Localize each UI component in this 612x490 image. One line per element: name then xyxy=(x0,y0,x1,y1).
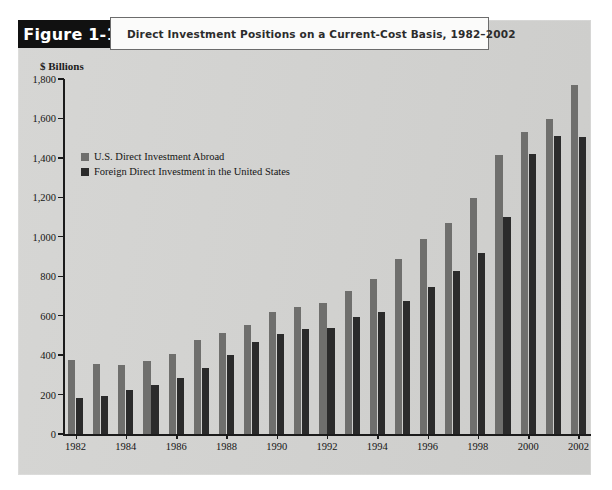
bar-us-direct-investment-abroad xyxy=(420,239,427,434)
x-axis-tick-label: 1990 xyxy=(266,441,287,452)
x-axis-tick xyxy=(126,434,127,439)
legend-label: U.S. Direct Investment Abroad xyxy=(94,151,224,162)
bar-us-direct-investment-abroad xyxy=(495,155,502,434)
figure-container: Figure 1-1 Direct Investment Positions o… xyxy=(0,0,612,490)
bar-foreign-direct-investment-in-us xyxy=(126,390,133,434)
y-axis-tick-label: 800 xyxy=(18,271,56,282)
figure-number-tab: Figure 1-1 xyxy=(18,20,123,48)
legend-swatch-icon xyxy=(81,168,89,176)
bar-us-direct-investment-abroad xyxy=(546,119,553,434)
x-axis-tick xyxy=(478,434,479,439)
figure-number-label: Figure 1-1 xyxy=(23,25,117,44)
page-title: Direct Investment Positions on a Current… xyxy=(127,28,516,40)
bar-foreign-direct-investment-in-us xyxy=(227,355,234,434)
y-axis-tick-label: 400 xyxy=(18,350,56,361)
bar-foreign-direct-investment-in-us xyxy=(353,317,360,434)
y-axis-unit-label: $ Billions xyxy=(40,60,84,72)
bar-us-direct-investment-abroad xyxy=(571,85,578,434)
x-axis-tick xyxy=(528,434,529,439)
x-axis-tick-label: 1992 xyxy=(317,441,338,452)
bar-us-direct-investment-abroad xyxy=(244,325,251,434)
y-axis-tick-label: 200 xyxy=(18,389,56,400)
bar-plot xyxy=(63,79,591,434)
bar-us-direct-investment-abroad xyxy=(395,259,402,434)
bar-us-direct-investment-abroad xyxy=(294,307,301,434)
bar-foreign-direct-investment-in-us xyxy=(252,342,259,434)
x-axis-tick xyxy=(226,434,227,439)
bar-us-direct-investment-abroad xyxy=(445,223,452,434)
x-axis-tick-label: 1998 xyxy=(467,441,488,452)
x-axis-tick xyxy=(327,434,328,439)
bar-us-direct-investment-abroad xyxy=(370,279,377,434)
bar-foreign-direct-investment-in-us xyxy=(302,329,309,434)
x-axis-tick-label: 1984 xyxy=(115,441,136,452)
bar-us-direct-investment-abroad xyxy=(118,365,125,434)
bar-foreign-direct-investment-in-us xyxy=(378,312,385,434)
y-axis-tick-label: 1,800 xyxy=(18,74,56,85)
x-axis-tick xyxy=(428,434,429,439)
legend-label: Foreign Direct Investment in the United … xyxy=(94,166,290,177)
x-axis-tick xyxy=(277,434,278,439)
x-axis-tick-label: 2002 xyxy=(568,441,589,452)
y-axis-tick-label: 600 xyxy=(18,310,56,321)
bar-us-direct-investment-abroad xyxy=(521,132,528,434)
chart-legend: U.S. Direct Investment AbroadForeign Dir… xyxy=(81,151,290,181)
y-axis-tick-label: 0 xyxy=(18,429,56,440)
legend-item: U.S. Direct Investment Abroad xyxy=(81,151,290,162)
y-axis-tick-label: 1,600 xyxy=(18,113,56,124)
y-axis-tick-label: 1,400 xyxy=(18,152,56,163)
bar-foreign-direct-investment-in-us xyxy=(428,287,435,434)
bar-foreign-direct-investment-in-us xyxy=(101,396,108,434)
legend-item: Foreign Direct Investment in the United … xyxy=(81,166,290,177)
x-axis-tick xyxy=(176,434,177,439)
legend-swatch-icon xyxy=(81,153,89,161)
y-axis-tick-label: 1,000 xyxy=(18,231,56,242)
bar-foreign-direct-investment-in-us xyxy=(202,368,209,434)
bar-us-direct-investment-abroad xyxy=(169,354,176,434)
bar-foreign-direct-investment-in-us xyxy=(554,136,561,434)
bar-us-direct-investment-abroad xyxy=(319,303,326,434)
bar-foreign-direct-investment-in-us xyxy=(327,328,334,435)
bar-us-direct-investment-abroad xyxy=(269,312,276,434)
x-axis-tick-label: 1986 xyxy=(166,441,187,452)
x-axis-tick-label: 1982 xyxy=(65,441,86,452)
bar-foreign-direct-investment-in-us xyxy=(529,154,536,434)
bar-us-direct-investment-abroad xyxy=(93,364,100,434)
x-axis-tick xyxy=(578,434,579,439)
bar-us-direct-investment-abroad xyxy=(219,333,226,434)
bar-foreign-direct-investment-in-us xyxy=(579,137,586,434)
chart-area: $ Billions 02004006008001,0001,2001,4001… xyxy=(18,48,591,475)
bar-us-direct-investment-abroad xyxy=(470,198,477,434)
bar-us-direct-investment-abroad xyxy=(345,291,352,434)
x-axis-tick-label: 1994 xyxy=(367,441,388,452)
bar-foreign-direct-investment-in-us xyxy=(478,253,485,434)
figure-title-bar: Direct Investment Positions on a Current… xyxy=(110,17,489,50)
x-axis-tick xyxy=(377,434,378,439)
bar-foreign-direct-investment-in-us xyxy=(453,271,460,434)
x-axis-tick-label: 1996 xyxy=(417,441,438,452)
bar-us-direct-investment-abroad xyxy=(194,340,201,434)
x-axis-tick-label: 2000 xyxy=(518,441,539,452)
y-axis-tick-label: 1,200 xyxy=(18,192,56,203)
bar-foreign-direct-investment-in-us xyxy=(277,334,284,434)
x-axis-tick-label: 1988 xyxy=(216,441,237,452)
bar-foreign-direct-investment-in-us xyxy=(151,385,158,434)
bar-us-direct-investment-abroad xyxy=(143,361,150,434)
bar-foreign-direct-investment-in-us xyxy=(76,398,83,434)
bar-foreign-direct-investment-in-us xyxy=(177,378,184,434)
bar-foreign-direct-investment-in-us xyxy=(503,217,510,434)
x-axis-tick xyxy=(76,434,77,439)
bar-us-direct-investment-abroad xyxy=(68,360,75,434)
bar-foreign-direct-investment-in-us xyxy=(403,301,410,434)
